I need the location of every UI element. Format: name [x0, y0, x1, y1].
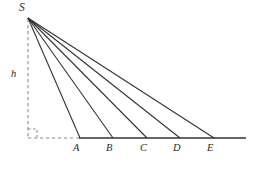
rays-group — [28, 18, 214, 138]
ray-S-to-E — [28, 18, 214, 138]
ray-S-to-A — [28, 18, 80, 138]
baseline-label-C: C — [140, 143, 147, 154]
right-angle-icon — [28, 129, 37, 138]
baseline-label-B: B — [106, 143, 112, 154]
ray-S-to-B — [28, 18, 113, 138]
apex-label-S: S — [19, 2, 25, 14]
height-label-h: h — [11, 69, 16, 80]
geometry-canvas — [0, 0, 262, 171]
ray-S-to-D — [28, 18, 180, 138]
baseline-label-D: D — [173, 143, 181, 154]
ray-S-to-C — [28, 18, 147, 138]
geometry-figure: S h ABCDE — [0, 0, 262, 171]
baseline-label-E: E — [207, 143, 213, 154]
baseline-label-A: A — [73, 143, 79, 154]
